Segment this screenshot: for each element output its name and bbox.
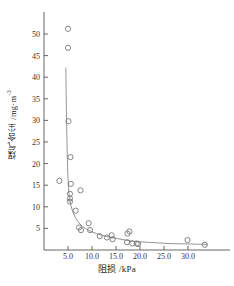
x-tick-label: 5.0 [63,252,73,261]
x-tick-label: 15.0 [109,252,123,261]
y-tick-label: 40 [32,73,40,82]
data-point-marker [202,242,207,247]
data-point-marker [185,237,190,242]
plot-canvas: 5101520253035404550 5.010.015.020.025.03… [0,0,234,286]
y-tick-label: 30 [32,116,40,125]
data-point-marker [65,26,70,31]
x-tick-label: 25.0 [157,252,171,261]
data-points [57,26,208,247]
data-point-marker [68,181,73,186]
y-tick-label: 20 [32,160,40,169]
scatter-chart-figure: 5101520253035404550 5.010.015.020.025.03… [0,0,234,286]
y-tick-label: 15 [32,181,40,190]
x-axis-label: 阻损 /kPa [0,262,234,275]
data-point-marker [78,188,83,193]
y-tick-label: 35 [32,95,40,104]
y-axis-label: 煤气含尘 /mg·m-3 [3,0,21,250]
y-axis-label-exponent: -3 [6,90,12,96]
y-tick-label: 25 [32,138,40,147]
y-tick-label: 45 [32,52,40,61]
y-tick-label: 5 [36,224,40,233]
data-point-marker [65,45,70,50]
x-tick-label: 30.0 [181,252,195,261]
x-axis-ticks: 5.010.015.020.025.030.0 [63,246,195,261]
y-axis-ticks: 5101520253035404550 [32,30,48,233]
x-tick-label: 10.0 [85,252,99,261]
data-point-marker [68,155,73,160]
y-axis-label-text: 煤气含尘 /mg·m [7,96,17,160]
y-tick-label: 50 [32,30,40,39]
data-point-marker [86,221,91,226]
data-point-marker [57,178,62,183]
data-point-marker [73,208,78,213]
fitted-curve [66,68,207,245]
x-tick-label: 20.0 [133,252,147,261]
y-tick-label: 10 [32,203,40,212]
axes [44,12,230,250]
